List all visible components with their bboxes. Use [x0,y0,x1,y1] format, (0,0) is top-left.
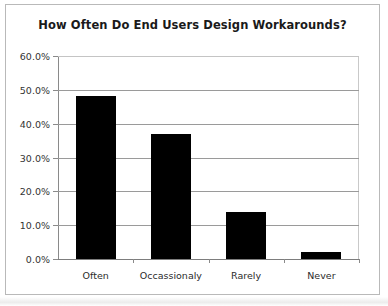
y-tick-mark [53,56,58,57]
bar [151,134,191,259]
x-tick-mark [133,259,134,263]
chart-title: How Often Do End Users Design Workaround… [6,18,379,32]
y-tick-label: 20.0% [20,186,50,197]
chart-figure: How Often Do End Users Design Workaround… [5,4,380,295]
plot-area: 0.0%10.0%20.0%30.0%40.0%50.0%60.0% Often… [58,56,359,259]
bar [76,96,116,259]
y-tick-label: 10.0% [20,220,50,231]
y-tick-mark [53,158,58,159]
bar [301,252,341,259]
y-tick-mark [53,225,58,226]
scan-artifact [0,297,388,306]
y-tick-mark [53,259,58,260]
x-tick-mark [284,259,285,263]
y-tick-mark [53,124,58,125]
x-tick-mark [359,259,360,263]
bar [226,212,266,259]
x-tick-label: Never [307,270,335,281]
y-tick-label: 60.0% [20,51,50,62]
x-tick-label: Rarely [231,270,261,281]
y-tick-mark [53,90,58,91]
gridline [58,90,359,91]
gridline [58,56,359,57]
y-tick-label: 30.0% [20,152,50,163]
x-tick-label: Often [83,270,109,281]
x-tick-label: Occassionaly [140,270,202,281]
y-tick-label: 40.0% [20,118,50,129]
y-tick-label: 0.0% [26,254,50,265]
y-tick-label: 50.0% [20,84,50,95]
x-tick-mark [209,259,210,263]
y-tick-mark [53,191,58,192]
